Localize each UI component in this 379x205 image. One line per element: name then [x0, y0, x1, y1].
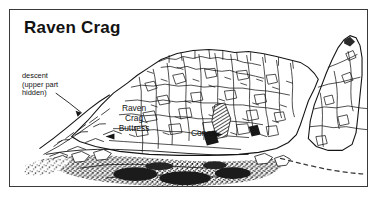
- annotation-descent: descent (upper part hidden): [22, 72, 58, 98]
- annotation-raven-crag-buttress: Raven Crag Buttress: [106, 104, 162, 134]
- descent-path: [280, 158, 366, 174]
- page-title: Raven Crag: [24, 18, 120, 38]
- left-scree-tail: [24, 158, 72, 175]
- descent-leader: [56, 93, 82, 117]
- annotation-corvus: Corvus: [191, 129, 218, 139]
- crag-skyline: [72, 50, 319, 156]
- crag-illustration-frame: Raven Crag descent (upper part hidden) R…: [9, 9, 368, 187]
